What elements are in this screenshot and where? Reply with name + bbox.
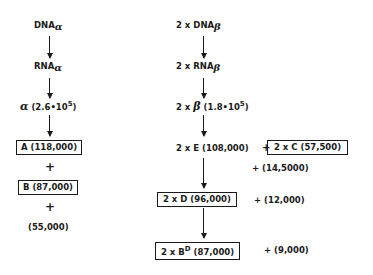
box-bd: 2 x BD (87,000) <box>155 242 240 260</box>
alpha-symbol: α <box>20 100 28 113</box>
box-b: B (87,000) <box>18 180 78 195</box>
beta-symbol: β <box>193 100 200 113</box>
e-product: 2 x E (108,000) <box>176 143 249 153</box>
arrow-d-to-bd <box>203 208 204 238</box>
box-a: A (118,000) <box>16 140 82 155</box>
protein-beta: 2 x β (1.8•105) <box>176 100 249 113</box>
d-extra-fragment: + (12,000) <box>254 195 305 205</box>
box-c: 2 x C (57,500) <box>267 140 348 155</box>
arrow-protein-to-a <box>49 115 50 136</box>
rna-alpha: RNAα <box>34 61 62 73</box>
arrow-e-to-d <box>203 158 204 188</box>
box-d: 2 x D (96,000) <box>157 192 237 207</box>
rna-beta: 2 x RNAβ <box>176 61 220 73</box>
remainder-alpha: (55,000) <box>28 222 69 232</box>
protein-alpha: α (2.6•105) <box>20 100 76 113</box>
alpha-subscript: α <box>54 62 62 73</box>
dna-alpha: DNAα <box>34 20 62 32</box>
arrow-dna-to-rna-alpha <box>49 36 50 58</box>
beta-subscript: β <box>214 62 221 73</box>
arrow-protein-to-e <box>203 115 204 136</box>
arrow-rna-to-protein-beta <box>203 78 204 98</box>
plus-sign: + <box>45 160 55 174</box>
arrow-dna-to-rna-beta <box>203 36 204 58</box>
beta-subscript: β <box>214 21 221 32</box>
arrow-rna-to-protein-alpha <box>49 78 50 98</box>
plus-sign: + <box>45 200 55 214</box>
c-extra-fragment: + (14,5000) <box>252 163 309 173</box>
dna-beta: 2 x DNAβ <box>176 20 221 32</box>
alpha-subscript: α <box>55 21 63 32</box>
bd-extra-fragment: + (9,000) <box>264 245 309 255</box>
